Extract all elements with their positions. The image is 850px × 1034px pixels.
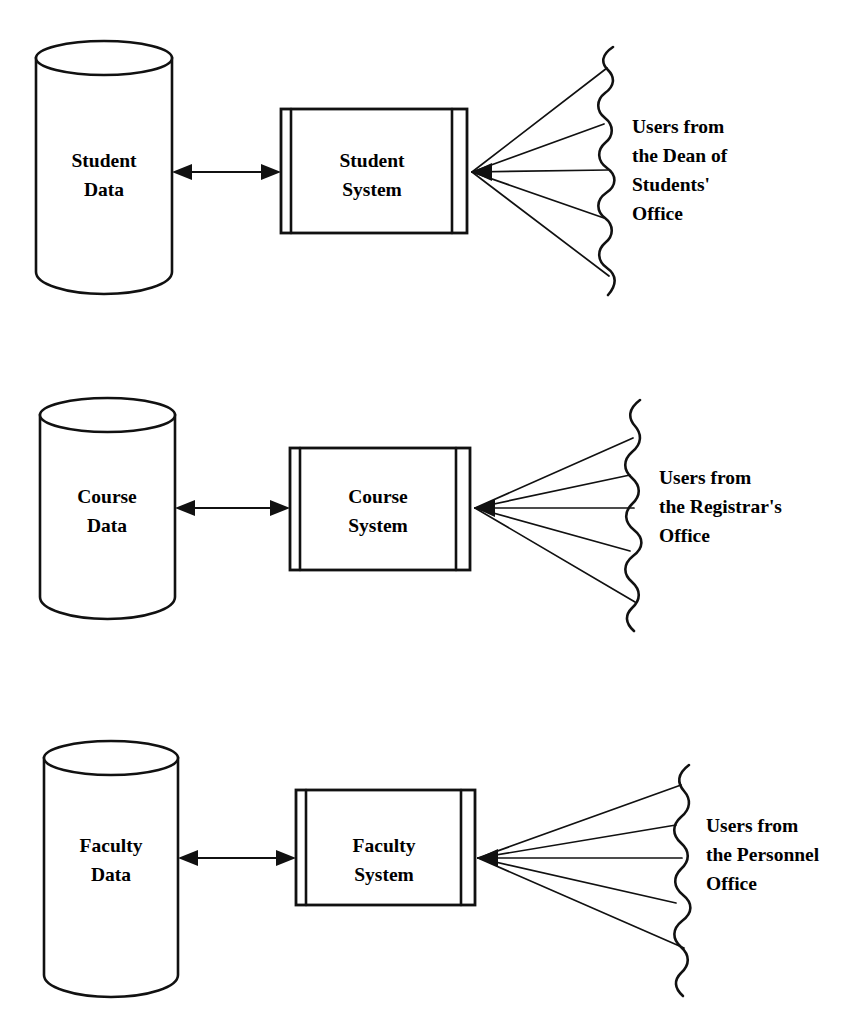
fan-arrow-head	[472, 163, 492, 181]
fan-line	[472, 170, 608, 172]
users-label-line2: the Dean of	[632, 145, 728, 166]
datastore-label-line1: Faculty	[80, 835, 143, 856]
row-course: Course Data Course System	[40, 398, 782, 631]
users-label-line3: Office	[659, 525, 710, 546]
system-label-line1: Course	[348, 486, 408, 507]
users-wavy-bracket	[674, 765, 690, 996]
arrow-head-right	[261, 164, 281, 180]
users-label-line3: Office	[706, 873, 757, 894]
system-label-line2: System	[348, 515, 408, 536]
datastore-label-line2: Data	[87, 515, 127, 536]
fan-line	[475, 475, 630, 508]
row-faculty: Faculty Data Faculty System	[44, 741, 820, 997]
datastore-label-line2: Data	[84, 179, 124, 200]
users-label-line4: Office	[632, 203, 683, 224]
cylinder-top-ellipse	[40, 398, 175, 432]
users-label-line3: Students'	[632, 174, 710, 195]
fan-line	[475, 438, 633, 508]
users-wavy-bracket	[598, 47, 614, 295]
system-label-line1: Student	[339, 150, 405, 171]
arrow-head-left	[175, 500, 195, 516]
system-label-line1: Faculty	[353, 835, 416, 856]
arrow-head-right	[270, 500, 290, 516]
fan-line	[478, 858, 676, 903]
arrow-head-left	[172, 164, 192, 180]
user-fan-lines-course	[475, 438, 635, 602]
cylinder-top-ellipse	[44, 741, 178, 775]
system-box-outline	[290, 448, 470, 570]
users-label-line2: the Personnel	[706, 844, 820, 865]
fan-line	[475, 508, 630, 551]
cylinder-body	[36, 58, 172, 294]
system-box-course	[290, 448, 470, 570]
fan-line	[472, 68, 607, 172]
bidirectional-arrow-course	[175, 500, 290, 516]
datastore-label-line1: Course	[77, 486, 137, 507]
fan-line	[475, 508, 635, 602]
users-label-line2: the Registrar's	[659, 496, 782, 517]
bidirectional-arrow-student	[172, 164, 281, 180]
users-label-line1: Users from	[632, 116, 724, 137]
users-label-line1: Users from	[659, 467, 751, 488]
cylinder-top-ellipse	[36, 41, 172, 75]
user-fan-lines-faculty	[478, 785, 684, 948]
fan-arrow-head	[478, 849, 498, 867]
fan-line	[478, 858, 684, 948]
users-label-line1: Users from	[706, 815, 798, 836]
datastore-cylinder-course	[40, 398, 175, 619]
system-context-diagram: Student Data Student System	[0, 0, 850, 1034]
fan-line	[478, 785, 681, 858]
row-student: Student Data Student System	[36, 41, 728, 295]
users-wavy-bracket	[625, 400, 641, 631]
arrow-head-left	[178, 850, 198, 866]
system-box-outline	[281, 109, 467, 233]
diagram-canvas: Student Data Student System	[0, 0, 850, 1034]
datastore-label-line1: Student	[71, 150, 137, 171]
datastore-label-line2: Data	[91, 864, 131, 885]
system-box-student	[281, 109, 467, 233]
user-fan-lines-student	[472, 68, 609, 276]
system-label-line2: System	[342, 179, 402, 200]
fan-line	[472, 172, 609, 276]
fan-line	[478, 825, 676, 858]
system-label-line2: System	[354, 864, 414, 885]
arrow-head-right	[276, 850, 296, 866]
bidirectional-arrow-faculty	[178, 850, 296, 866]
